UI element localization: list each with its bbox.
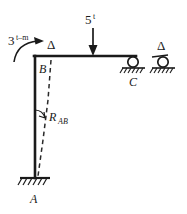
support-a-label: A <box>29 192 38 206</box>
roller-support-displaced-icon <box>150 55 175 73</box>
down-arrow-icon <box>89 28 98 56</box>
structural-frame-diagram: 3 t–m Δ 5 t B R AB C Δ A <box>0 0 187 214</box>
moment-unit-label: t–m <box>16 33 29 42</box>
joint-b-label: B <box>39 62 47 76</box>
rotation-subscript-label: AB <box>57 117 68 126</box>
delta-right-label: Δ <box>157 38 165 53</box>
diagram-canvas: 3 t–m Δ 5 t B R AB C Δ A <box>0 0 187 214</box>
delta-left-label: Δ <box>47 37 55 52</box>
rotation-label: R <box>48 110 57 124</box>
moment-value-label: 3 <box>8 33 15 48</box>
joint-c-label: C <box>129 75 138 89</box>
angle-arc-icon <box>35 110 45 118</box>
roller-support-icon <box>120 57 145 73</box>
point-load-value-label: 5 <box>85 12 92 27</box>
fixed-support-icon <box>18 178 50 185</box>
point-load-unit-label: t <box>93 12 96 21</box>
